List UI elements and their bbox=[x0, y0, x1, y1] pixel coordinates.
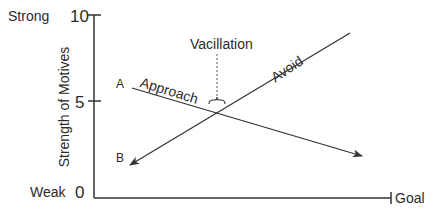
y-tick-label-5: 5 bbox=[75, 94, 84, 111]
avoid-line bbox=[130, 33, 350, 165]
y-axis-label: Strength of Motives bbox=[56, 47, 72, 168]
y-tick-descriptor-strong: Strong bbox=[8, 9, 49, 23]
vacillation-brace bbox=[209, 97, 225, 104]
x-axis-end-label: Goal bbox=[395, 191, 425, 205]
line-a-label: A bbox=[116, 78, 124, 90]
y-tick-descriptor-weak: Weak bbox=[30, 185, 66, 199]
vacillation-label: Vacillation bbox=[190, 37, 253, 51]
y-tick-label-10: 10 bbox=[70, 8, 89, 25]
line-b-label: B bbox=[116, 152, 124, 164]
y-tick-label-0: 0 bbox=[75, 184, 84, 201]
